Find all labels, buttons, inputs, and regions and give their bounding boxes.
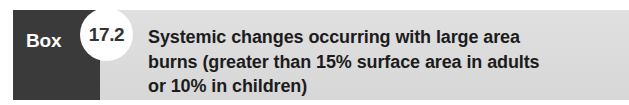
box-number: 17.2 xyxy=(89,25,124,44)
box-title-line-1: Systemic changes occurring with large ar… xyxy=(148,25,623,50)
box-number-badge: 17.2 xyxy=(80,8,133,61)
box-callout: Box 17.2 Systemic changes occurring with… xyxy=(13,10,629,100)
box-label: Box xyxy=(26,30,61,52)
box-title: Systemic changes occurring with large ar… xyxy=(148,25,623,99)
box-title-line-2: burns (greater than 15% surface area in … xyxy=(148,50,623,75)
box-title-line-3: or 10% in children) xyxy=(148,74,623,99)
